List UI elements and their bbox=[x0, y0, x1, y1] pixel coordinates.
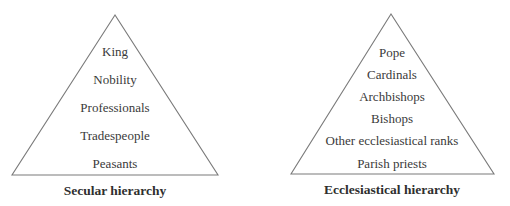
ecclesiastical-level-archbishops: Archbishops bbox=[359, 89, 425, 104]
ecclesiastical-level-bishops: Bishops bbox=[371, 111, 413, 126]
ecclesiastical-level-cardinals: Cardinals bbox=[367, 67, 417, 82]
ecclesiastical-level-parish-priests: Parish priests bbox=[357, 156, 427, 171]
ecclesiastical-level-other-ranks: Other ecclesiastical ranks bbox=[326, 133, 459, 148]
secular-level-tradespeople: Tradespeople bbox=[80, 128, 150, 143]
secular-level-peasants: Peasants bbox=[93, 156, 138, 171]
secular-triangle bbox=[12, 15, 218, 175]
secular-level-professionals: Professionals bbox=[80, 100, 149, 115]
ecclesiastical-caption: Ecclesiastical hierarchy bbox=[324, 182, 460, 197]
ecclesiastical-level-pope: Pope bbox=[379, 45, 405, 60]
hierarchy-diagrams: King Nobility Professionals Tradespeople… bbox=[0, 0, 510, 206]
secular-level-nobility: Nobility bbox=[93, 72, 137, 87]
secular-level-king: King bbox=[102, 44, 129, 59]
secular-caption: Secular hierarchy bbox=[64, 183, 167, 198]
secular-pyramid: King Nobility Professionals Tradespeople… bbox=[12, 15, 218, 198]
ecclesiastical-pyramid: Pope Cardinals Archbishops Bishops Other… bbox=[291, 14, 494, 197]
